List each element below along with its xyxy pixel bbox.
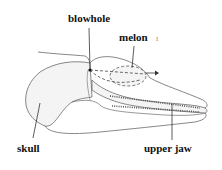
melon-label: melon (119, 32, 148, 43)
melon-shape (110, 66, 146, 86)
lower-jaw-outline (45, 113, 206, 134)
melon-leader (132, 46, 134, 68)
sound-arrow-head (155, 71, 159, 76)
upper-jaw-label: upper jaw (144, 143, 192, 154)
dolphin-head-diagram: blowhole melon ı skull upper jaw (0, 0, 222, 170)
tick-mark: ı (156, 35, 158, 43)
blowhole-label: blowhole (68, 13, 110, 24)
skull-label: skull (17, 143, 40, 154)
skull-shape (26, 62, 92, 126)
body-top-outline (38, 52, 90, 63)
